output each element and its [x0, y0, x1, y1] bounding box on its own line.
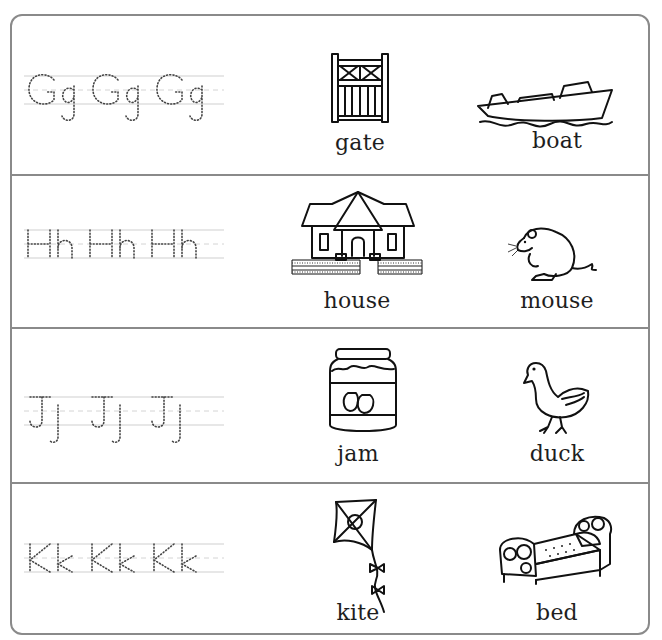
word-label: kite: [288, 600, 428, 625]
word-label: gate: [290, 130, 430, 155]
dotted-hh-icon: [24, 222, 224, 282]
row-k: kite bed: [12, 482, 648, 635]
trace-letters-kk: [24, 536, 224, 596]
row-j: jam duck: [12, 327, 648, 482]
mouse-icon: [508, 224, 600, 286]
trace-letters-gg: [24, 68, 224, 128]
duck-icon: [522, 361, 592, 439]
bed-icon: [496, 514, 614, 590]
word-label: bed: [487, 600, 627, 625]
dotted-jj-icon: [24, 389, 224, 449]
row-g: gate boat: [12, 16, 648, 174]
jam-jar-icon: [328, 347, 398, 439]
gate-icon: [330, 50, 390, 128]
dotted-kk-icon: [24, 536, 224, 596]
word-label: duck: [487, 441, 627, 466]
house-icon: [290, 190, 426, 282]
trace-letters-jj: [24, 389, 224, 449]
trace-letters-hh: [24, 222, 224, 282]
word-label: boat: [487, 128, 627, 153]
row-h: house mouse: [12, 174, 648, 327]
worksheet-frame: gate boat: [10, 14, 650, 635]
word-label: mouse: [487, 288, 627, 313]
dotted-gg-icon: [24, 68, 224, 128]
word-label: house: [287, 288, 427, 313]
word-label: jam: [288, 441, 428, 466]
